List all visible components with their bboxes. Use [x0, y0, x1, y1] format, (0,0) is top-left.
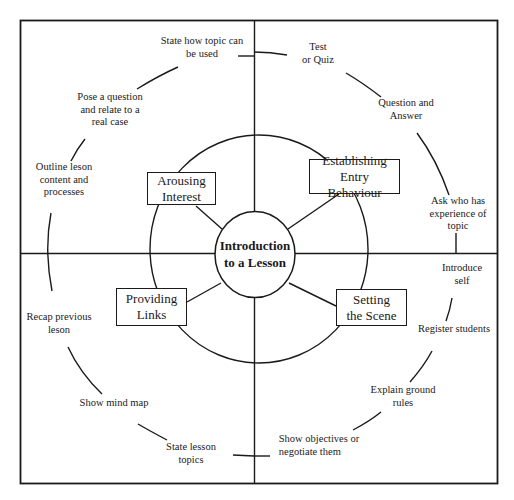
center-title-line-2: to a Lesson [220, 254, 291, 271]
activity-line: topics [166, 454, 216, 467]
stage-label: Providing [126, 291, 177, 307]
center-title: Introduction to a Lesson [213, 211, 297, 297]
activity-line: Question and [378, 97, 434, 110]
activity-line: Introduce [442, 262, 482, 275]
activity-line: leson [26, 324, 91, 337]
activity-explain-ground-rules: Explain ground rules [370, 384, 435, 409]
activity-question-and-answer: Question and Answer [378, 97, 434, 122]
arc-seg [410, 351, 432, 382]
stage-label: Links [126, 307, 177, 323]
activity-line: processes [36, 186, 92, 199]
activity-line: negotiate them [279, 446, 360, 459]
activity-show-mind-map: Show mind map [80, 397, 149, 410]
activity-test-or-quiz: Test or Quiz [302, 41, 334, 66]
arc-seg [417, 133, 449, 195]
activity-state-how-topic-used: State how topic can be used [161, 35, 244, 60]
stage-box-setting-the-scene: Setting the Scene [336, 289, 407, 326]
activity-show-objectives: Show objectives or negotiate them [279, 433, 360, 458]
arc-seg [68, 347, 102, 394]
activity-introduce-self: Introduce self [442, 262, 482, 287]
stage-box-providing-links: Providing Links [116, 288, 187, 326]
activity-line: Outline leson [36, 161, 92, 174]
activity-state-lesson-topics: State lesson topics [166, 441, 216, 466]
arc-seg [446, 298, 452, 321]
activity-line: State how topic can [161, 35, 244, 48]
activity-line: self [442, 275, 482, 288]
activity-line: Explain ground [370, 384, 435, 397]
activity-line: experience of [430, 208, 487, 221]
activity-line: Ask who has [430, 195, 487, 208]
arc-seg [137, 67, 178, 89]
activity-register-students: Register students [418, 323, 490, 336]
arc-seg [233, 455, 254, 456]
stage-label: Arousing [157, 173, 205, 189]
activity-line: Register students [418, 323, 490, 336]
activity-line: Test [302, 41, 334, 54]
activity-line: and relate to a [77, 104, 142, 117]
activity-line: State lesson [166, 441, 216, 454]
activity-line: Recap previous [26, 311, 91, 324]
arc-seg [353, 412, 381, 430]
stage-box-arousing-interest: Arousing Interest [147, 172, 216, 205]
arc-seg [48, 213, 52, 291]
activity-line: be used [161, 48, 244, 61]
activity-line: real case [77, 116, 142, 129]
activity-line: rules [370, 397, 435, 410]
activity-line: topic [430, 220, 487, 233]
arc-seg [138, 424, 167, 440]
activity-line: or Quiz [302, 54, 334, 67]
stage-label: the Scene [346, 308, 396, 324]
stage-box-establishing-entry-behaviour: Establishing Entry Behaviour [309, 159, 400, 194]
activity-line: Show mind map [80, 397, 149, 410]
activity-recap-previous-lesson: Recap previous leson [26, 311, 91, 336]
arc-seg [254, 52, 287, 55]
activity-line: Answer [378, 110, 434, 123]
center-title-line-1: Introduction [220, 237, 291, 254]
activity-pose-question: Pose a question and relate to a real cas… [77, 91, 142, 129]
arc-seg [71, 139, 85, 161]
stage-label: Setting [346, 292, 396, 308]
activity-outline-lesson-content: Outline leson content and processes [36, 161, 92, 199]
stage-label: Establishing [313, 153, 396, 169]
stage-label: Interest [157, 189, 205, 205]
lesson-introduction-diagram: Introduction to a Lesson Arousing Intere… [0, 0, 514, 500]
activity-line: content and [36, 174, 92, 187]
arc-seg [346, 73, 381, 97]
stage-label: Entry Behaviour [313, 169, 396, 201]
activity-line: Show objectives or [279, 433, 360, 446]
activity-line: Pose a question [77, 91, 142, 104]
activity-ask-who-has-experience: Ask who has experience of topic [430, 195, 487, 233]
